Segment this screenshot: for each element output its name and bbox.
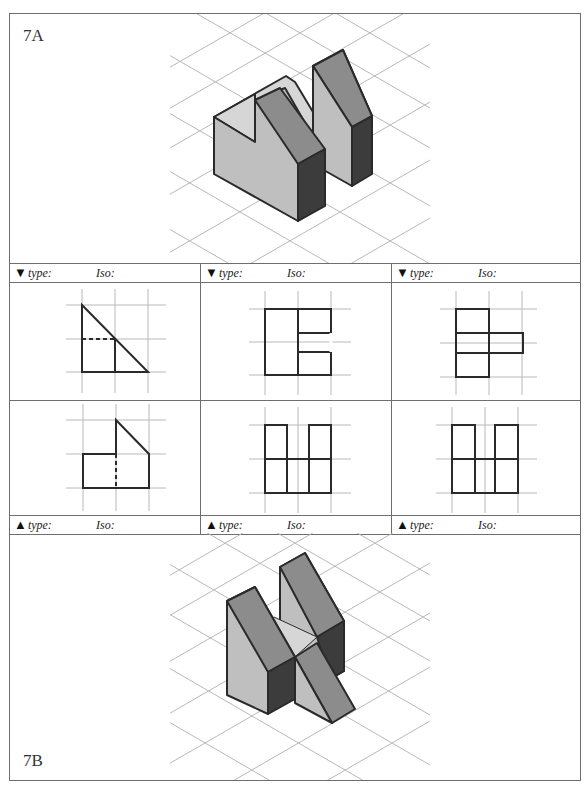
exercise-frame: 7A ▼type: Iso: ▼type: Iso: ▼type: Iso: xyxy=(9,13,581,781)
view-cell-double-column xyxy=(392,401,582,516)
type-label: type: xyxy=(410,518,434,532)
view-cell-triangle xyxy=(10,283,200,398)
iso-label: Iso: xyxy=(96,516,115,534)
header-row-bottom: ▲type: Iso: ▲type: Iso: ▲type: Iso: xyxy=(10,515,580,535)
triangle-down-icon: ▼ xyxy=(14,265,27,280)
triangle-up-icon: ▲ xyxy=(14,517,27,532)
type-label: type: xyxy=(28,266,52,280)
type-label: type: xyxy=(219,266,243,280)
iso-label: Iso: xyxy=(287,264,306,282)
isometric-grid-7b xyxy=(170,533,430,780)
header-row-top: ▼type: Iso: ▼type: Iso: ▼type: Iso: xyxy=(10,263,580,283)
iso-label: Iso: xyxy=(287,516,306,534)
header-cell: ▼type: Iso: xyxy=(392,264,580,282)
type-label: type: xyxy=(28,518,52,532)
panel-7a: 7A xyxy=(10,14,580,263)
header-cell: ▲type: Iso: xyxy=(10,516,200,534)
clipped-caption-line xyxy=(0,0,587,4)
triangle-down-icon: ▼ xyxy=(205,265,218,280)
header-cell: ▼type: Iso: xyxy=(201,264,391,282)
iso-label: Iso: xyxy=(478,264,497,282)
type-label: type: xyxy=(219,518,243,532)
type-label: type: xyxy=(410,266,434,280)
header-cell: ▲type: Iso: xyxy=(392,516,580,534)
triangle-up-icon: ▲ xyxy=(396,517,409,532)
triangle-up-icon: ▲ xyxy=(205,517,218,532)
panel-label-7b: 7B xyxy=(23,751,43,771)
iso-label: Iso: xyxy=(96,264,115,282)
header-cell: ▲type: Iso: xyxy=(201,516,391,534)
view-cell-step-pentagon xyxy=(10,401,200,516)
view-cell-c-notch xyxy=(201,283,391,398)
orthographic-views-table: ▼type: Iso: ▼type: Iso: ▼type: Iso: xyxy=(10,263,580,533)
panel-7b: 7B xyxy=(10,533,580,780)
panel-label-7a: 7A xyxy=(23,26,44,46)
isometric-grid-7a xyxy=(170,14,430,263)
triangle-down-icon: ▼ xyxy=(396,265,409,280)
view-cell-double-column xyxy=(201,401,391,516)
iso-label: Iso: xyxy=(478,516,497,534)
header-cell: ▼type: Iso: xyxy=(10,264,200,282)
view-cell-t-stack xyxy=(392,283,582,398)
